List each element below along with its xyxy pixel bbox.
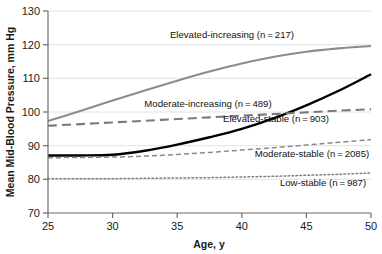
line-chart-canvas: 130 120 110 100 90 80 70 25 30 35 40 45 … [0,0,382,254]
x-axis: 25 30 35 40 45 50 [42,213,377,232]
y-tick-label-110: 110 [22,72,40,84]
annotation-low-stable: Low-stable (n = 987) [280,177,366,188]
series-annotations: Elevated-increasing (n = 217) Moderate-i… [144,29,369,188]
y-tick-label-80: 80 [28,173,40,185]
x-tick-label-25: 25 [42,220,54,232]
annotation-elevated-increasing: Elevated-increasing (n = 217) [170,29,294,40]
y-tick-label-100: 100 [22,106,40,118]
y-tick-label-90: 90 [28,140,40,152]
annotation-moderate-increasing: Moderate-increasing (n = 489) [144,98,271,109]
annotation-elevated-stable: Elevated-stable (n = 903) [223,113,329,124]
y-axis-title: Mean Mid-Blood Pressure, mm Hg [4,27,16,197]
x-tick-label-45: 45 [300,220,312,232]
y-tick-label-120: 120 [22,39,40,51]
y-axis: 130 120 110 100 90 80 70 [22,5,48,219]
x-tick-label-40: 40 [236,220,248,232]
annotation-moderate-stable: Moderate-stable (n = 2085) [255,148,370,159]
x-tick-label-35: 35 [171,220,183,232]
x-axis-title: Age, y [193,238,225,250]
x-tick-label-30: 30 [106,220,118,232]
chart-figure: 130 120 110 100 90 80 70 25 30 35 40 45 … [0,0,382,254]
y-tick-label-130: 130 [22,5,40,17]
y-tick-label-70: 70 [28,207,40,219]
x-tick-label-50: 50 [365,220,377,232]
series-line-elevated-increasing [48,46,371,121]
